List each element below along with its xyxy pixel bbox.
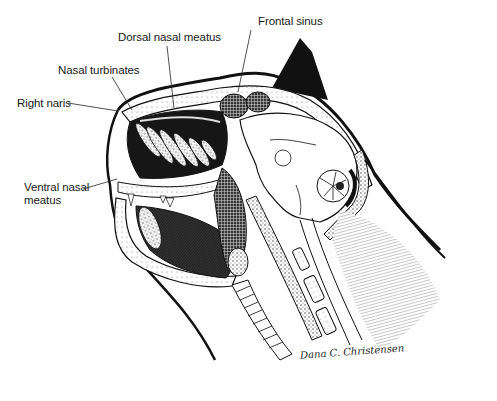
label-frontal-sinus: Frontal sinus [258,15,323,28]
label-dorsal-nasal-meatus: Dorsal nasal meatus [118,31,221,44]
label-right-naris: Right naris [17,97,71,110]
anatomical-diagram: Frontal sinus Dorsal nasal meatus Nasal … [0,0,497,401]
label-nasal-turbinates: Nasal turbinates [58,64,140,77]
trachea [232,280,292,360]
epiglottis [228,248,248,276]
neck-muscles [332,210,440,350]
label-ventral-nasal-meatus-line-1: Ventral nasal [24,181,89,194]
label-ventral-nasal-meatus: Ventral nasal meatus [24,181,89,207]
label-ventral-nasal-meatus-line-2: meatus [24,194,89,207]
nasal-cavity [127,110,227,178]
hard-palate [118,178,228,197]
leader-frontal-sinus [238,30,251,92]
leader-right-naris [68,103,118,111]
